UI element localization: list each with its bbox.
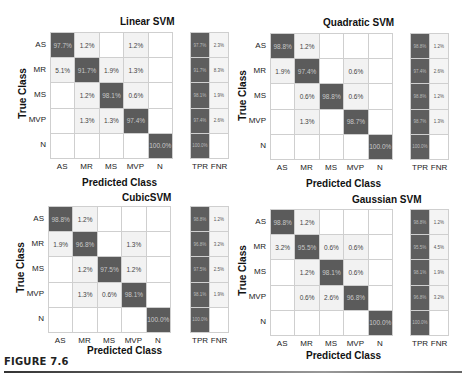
diagonal-cell: 98.8% bbox=[271, 210, 295, 235]
tpr-cell: 98.8% bbox=[411, 210, 430, 235]
matrix-cell bbox=[320, 110, 344, 135]
matrix-cell bbox=[98, 207, 122, 232]
matrix-cell: 0.6% bbox=[295, 84, 319, 109]
chart-title: CubicSVM bbox=[122, 192, 171, 203]
x-axis-label: Predicted Class bbox=[306, 178, 381, 189]
diagonal-cell: 97.7% bbox=[51, 33, 75, 58]
matrix-cell bbox=[149, 58, 173, 83]
matrix-cell bbox=[369, 84, 393, 109]
matrix-cell bbox=[369, 110, 393, 135]
matrix-cell bbox=[320, 210, 344, 235]
fnr-cell: 8.3% bbox=[210, 58, 229, 83]
matrix-cell bbox=[271, 110, 295, 135]
matrix-cell bbox=[51, 134, 75, 159]
matrix-cell: 1.2% bbox=[295, 210, 319, 235]
matrix-cell bbox=[149, 33, 173, 58]
matrix-cell bbox=[49, 308, 73, 333]
matrix-cell bbox=[147, 283, 171, 308]
fnr-cell: 1.2% bbox=[430, 34, 449, 59]
row-label: AS bbox=[236, 217, 266, 226]
fnr-cell: 1.2% bbox=[430, 210, 449, 235]
matrix-cell bbox=[122, 308, 146, 333]
matrix-cell: 1.2% bbox=[73, 257, 97, 282]
matrix-cell: 5.1% bbox=[51, 58, 75, 83]
row-label: MR bbox=[236, 242, 266, 251]
matrix-cell bbox=[100, 33, 124, 58]
diagonal-cell: 98.1% bbox=[100, 83, 124, 108]
column-label: AS bbox=[270, 339, 294, 348]
matrix-cell: 1.3% bbox=[295, 110, 319, 135]
tpr-fnr-panel: 98.8%1.2%96.8%3.2%97.5%2.5%98.1%1.9%100.… bbox=[190, 206, 229, 333]
diagonal-cell: 100.0% bbox=[369, 135, 393, 160]
column-label: AS bbox=[270, 163, 294, 172]
row-label: N bbox=[16, 140, 46, 149]
diagonal-cell: 96.8% bbox=[73, 232, 97, 257]
matrix-cell bbox=[147, 232, 171, 257]
matrix-cell bbox=[122, 207, 146, 232]
column-label: MS bbox=[319, 339, 343, 348]
matrix-cell bbox=[271, 84, 295, 109]
row-label: N bbox=[14, 314, 44, 323]
column-label: MR bbox=[294, 163, 318, 172]
chart-title: Gaussian SVM bbox=[352, 194, 421, 205]
matrix-cell: 1.2% bbox=[73, 207, 97, 232]
row-label: N bbox=[236, 317, 266, 326]
matrix-cell bbox=[344, 210, 368, 235]
fnr-cell: 1.2% bbox=[430, 84, 449, 109]
fnr-cell: 1.9% bbox=[210, 83, 229, 108]
matrix-cell bbox=[51, 83, 75, 108]
matrix-cell bbox=[320, 34, 344, 59]
row-label: MR bbox=[16, 65, 46, 74]
matrix-cell bbox=[320, 59, 344, 84]
fnr-cell: 1.2% bbox=[210, 207, 229, 232]
diagonal-cell: 96.8% bbox=[344, 286, 368, 311]
tpr-cell: 97.5% bbox=[191, 257, 210, 282]
tpr-fnr-panel: 98.8%1.2%95.5%4.5%98.1%1.9%96.8%3.2%100.… bbox=[410, 209, 449, 336]
row-label: AS bbox=[236, 41, 266, 50]
matrix-cell bbox=[271, 260, 295, 285]
figure-caption: FIGURE 7.6 bbox=[4, 356, 69, 367]
matrix-cell bbox=[98, 232, 122, 257]
matrix-cell: 1.9% bbox=[49, 232, 73, 257]
column-label: MVP bbox=[343, 339, 367, 348]
fnr-cell: 2.6% bbox=[210, 109, 229, 134]
matrix-cell: 0.6% bbox=[344, 59, 368, 84]
row-label: MVP bbox=[16, 115, 46, 124]
tpr-cell: 100.0% bbox=[411, 135, 430, 160]
tpr-cell: 100.0% bbox=[191, 308, 210, 333]
row-label: MS bbox=[236, 267, 266, 276]
diagonal-cell: 100.0% bbox=[149, 134, 173, 159]
tpr-fnr-panel: 97.7%2.3%91.7%8.3%98.1%1.9%97.4%2.6%100.… bbox=[190, 32, 229, 159]
matrix-cell: 1.2% bbox=[124, 33, 148, 58]
tpr-cell: 91.7% bbox=[191, 58, 210, 83]
x-axis-label: Predicted Class bbox=[87, 345, 162, 356]
fnr-label: FNR bbox=[429, 339, 449, 348]
matrix-grid: 98.8%1.2%3.2%95.5%0.6%0.6%1.2%98.1%0.6%0… bbox=[270, 209, 393, 336]
diagonal-cell: 95.5% bbox=[295, 235, 319, 260]
fnr-cell: 2.3% bbox=[210, 33, 229, 58]
matrix-cell: 1.3% bbox=[124, 58, 148, 83]
column-label: N bbox=[368, 339, 392, 348]
matrix-cell bbox=[147, 207, 171, 232]
matrix-cell: 1.3% bbox=[75, 109, 99, 134]
fnr-cell bbox=[210, 134, 229, 159]
matrix-cell bbox=[369, 210, 393, 235]
matrix-cell: 0.6% bbox=[98, 283, 122, 308]
row-label: AS bbox=[14, 214, 44, 223]
column-label: AS bbox=[48, 336, 72, 345]
fnr-cell bbox=[210, 308, 229, 333]
matrix-cell bbox=[100, 134, 124, 159]
matrix-cell: 0.6% bbox=[344, 84, 368, 109]
matrix-cell bbox=[271, 286, 295, 311]
column-label: MS bbox=[319, 163, 343, 172]
row-label: N bbox=[236, 141, 266, 150]
tpr-fnr-panel: 98.8%1.2%97.4%2.6%98.8%1.2%98.7%1.3%100.… bbox=[410, 33, 449, 160]
tpr-cell: 98.8% bbox=[191, 207, 210, 232]
fnr-cell: 2.5% bbox=[210, 257, 229, 282]
row-label: MVP bbox=[236, 116, 266, 125]
fnr-cell bbox=[430, 311, 449, 336]
matrix-cell: 1.3% bbox=[73, 283, 97, 308]
diagonal-cell: 98.7% bbox=[344, 110, 368, 135]
matrix-cell bbox=[320, 311, 344, 336]
matrix-cell bbox=[369, 286, 393, 311]
